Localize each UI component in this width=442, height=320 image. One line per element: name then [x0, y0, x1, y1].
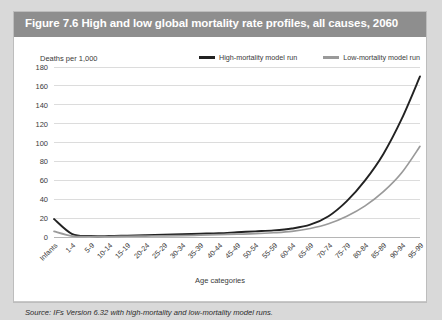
y-axis-tick-label: 40: [22, 195, 48, 204]
y-axis-tick-label: 20: [22, 214, 48, 223]
chart-region: Deaths per 1,000 High-mortality model ru…: [14, 37, 426, 303]
plot-svg: [14, 37, 426, 303]
y-axis-tick-label: 180: [22, 63, 48, 72]
source-divider: [14, 301, 426, 302]
y-axis-tick-label: 60: [22, 176, 48, 185]
series-line: [54, 146, 420, 236]
y-axis-tick-label: 80: [22, 157, 48, 166]
y-axis-tick-label: 160: [22, 81, 48, 90]
plot-area: 020406080100120140160180 Infants1-45-910…: [14, 37, 426, 303]
x-axis-title: Age categories: [14, 276, 426, 285]
y-axis-tick-label: 100: [22, 138, 48, 147]
y-axis-tick-label: 120: [22, 119, 48, 128]
figure-title: Figure 7.6 High and low global mortality…: [25, 17, 398, 29]
source-note: Source: IFs Version 6.32 with high-morta…: [25, 308, 273, 317]
figure-card: Figure 7.6 High and low global mortality…: [13, 11, 427, 303]
figure-title-bar: Figure 7.6 High and low global mortality…: [14, 12, 426, 37]
series-line: [54, 76, 420, 236]
y-axis-tick-label: 0: [22, 233, 48, 242]
y-axis-tick-label: 140: [22, 100, 48, 109]
